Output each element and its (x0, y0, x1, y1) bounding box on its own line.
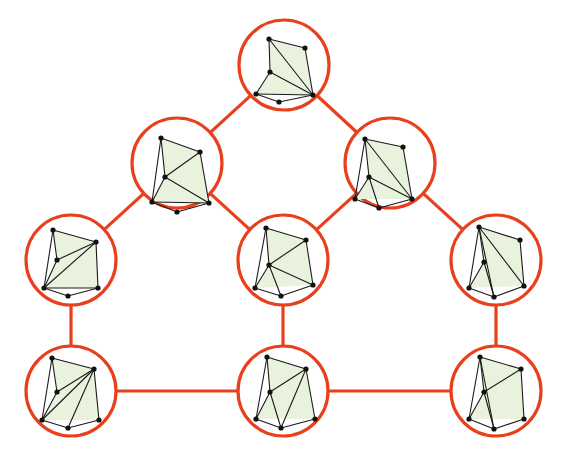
inner-graph-vertex (278, 425, 283, 430)
graph-node-top[interactable] (239, 20, 329, 110)
inner-graph-vertex (95, 285, 100, 290)
inner-graph-vertex (466, 416, 471, 421)
inner-graph-vertex (267, 389, 272, 394)
inner-graph-vertex (266, 262, 271, 267)
inner-graph-vertex (252, 285, 257, 290)
graph-node-mid-right[interactable] (451, 215, 541, 305)
inner-graph-vertex (253, 91, 258, 96)
inner-graph-vertex (518, 366, 523, 371)
inner-graph-vertex (91, 366, 96, 371)
inner-graph-vertex (96, 417, 101, 422)
figure-root (0, 0, 569, 457)
inner-graph-vertex (206, 200, 211, 205)
inner-graph-vertex (303, 237, 308, 242)
inner-graph-vertex (253, 416, 258, 421)
graph-node-upper-right[interactable] (345, 118, 435, 211)
inner-graph-vertex (481, 259, 486, 264)
graph-of-graphs-svg (0, 0, 569, 457)
inner-graph-vertex (39, 417, 44, 422)
inner-graph-vertex (266, 36, 271, 41)
inner-graph-vertex (310, 282, 315, 287)
inner-graph-vertex (41, 285, 46, 290)
inner-graph-vertex (476, 224, 481, 229)
inner-graph-vertex (521, 416, 526, 421)
inner-graph-vertex (466, 285, 471, 290)
inner-graph-vertex (162, 174, 167, 179)
inner-graph-vertex (517, 237, 522, 242)
graph-node-bottom-right[interactable] (451, 346, 541, 436)
inner-graph-vertex (376, 205, 381, 210)
graph-node-mid-left[interactable] (26, 215, 116, 305)
inner-graph-vertex (303, 366, 308, 371)
inner-graph-vertex (197, 149, 202, 154)
inner-graph-vertex (491, 426, 496, 431)
inner-graph-vertex (276, 99, 281, 104)
inner-graph-vertex (65, 425, 70, 430)
inner-graph-vertex (267, 69, 272, 74)
inner-graph-vertex (263, 225, 268, 230)
inner-graph-vertex (149, 199, 154, 204)
inner-graph-vertex (49, 355, 54, 360)
inner-graph-vertex (50, 227, 55, 232)
inner-graph-vertex (93, 239, 98, 244)
inner-graph-vertex (400, 144, 405, 149)
inner-graph-vertex (352, 196, 357, 201)
inner-graph-vertex (278, 293, 283, 298)
inner-graph-vertex (491, 294, 496, 299)
inner-graph-vertex (362, 136, 367, 141)
inner-graph-vertex (264, 354, 269, 359)
inner-graph-vertex (521, 283, 526, 288)
inner-graph-vertex (366, 174, 371, 179)
inner-graph-vertex (312, 416, 317, 421)
inner-graph-vertex (409, 196, 414, 201)
inner-graph-vertex (310, 92, 315, 97)
graph-node-mid-center[interactable] (238, 215, 328, 305)
inner-graph-vertex (302, 45, 307, 50)
inner-graph-vertex (65, 293, 70, 298)
inner-graph-vertex (158, 135, 163, 140)
inner-graph-vertex (477, 354, 482, 359)
inner-graph-vertex (54, 257, 59, 262)
inner-graph-vertex (54, 389, 59, 394)
graph-node-bottom-left[interactable] (26, 346, 116, 436)
graph-node-bottom-center[interactable] (238, 346, 328, 436)
inner-graph-vertex (174, 209, 179, 214)
inner-graph-vertex (481, 389, 486, 394)
